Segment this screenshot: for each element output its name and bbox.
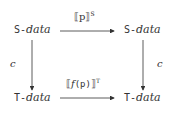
- node-s-data-right: S-data: [124, 23, 161, 36]
- node-prefix: T-: [124, 92, 136, 103]
- superscript: T: [96, 77, 100, 84]
- node-suffix: data: [26, 91, 51, 104]
- node-suffix: data: [26, 23, 51, 36]
- node-suffix: data: [136, 91, 161, 104]
- node-s-data-left: S-data: [14, 23, 51, 36]
- node-prefix: S-: [124, 24, 136, 35]
- semantics-bracket: ⟦p⟧: [74, 11, 90, 22]
- function-arg: (p): [75, 79, 91, 89]
- node-t-data-right: T-data: [124, 91, 161, 104]
- node-suffix: data: [136, 23, 161, 36]
- edge-label-right: c: [157, 58, 163, 69]
- edge-label-bottom: ⟦f(p)⟧T: [66, 77, 100, 89]
- node-prefix: S-: [14, 24, 26, 35]
- node-t-data-left: T-data: [14, 91, 51, 104]
- edge-label-left: c: [10, 58, 16, 69]
- superscript: S: [90, 10, 94, 17]
- node-prefix: T-: [14, 92, 26, 103]
- edge-label-top: ⟦p⟧S: [74, 10, 95, 22]
